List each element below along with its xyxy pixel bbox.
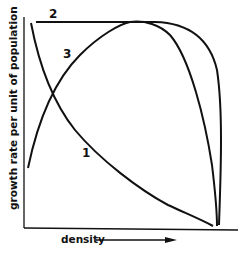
growth-rate-density-diagram: 1 2 3 growth rate per unit of population… — [0, 0, 247, 254]
arrow-right-icon — [165, 237, 177, 243]
curve-3 — [28, 22, 217, 226]
x-axis — [24, 228, 238, 230]
curve-3-label: 3 — [63, 47, 71, 61]
y-axis-title: growth rate per unit of population — [7, 6, 19, 210]
curve-1 — [31, 23, 213, 226]
curve-1-label: 1 — [82, 146, 90, 160]
x-axis-title: density — [61, 233, 105, 245]
curve-2-label: 2 — [49, 7, 57, 21]
